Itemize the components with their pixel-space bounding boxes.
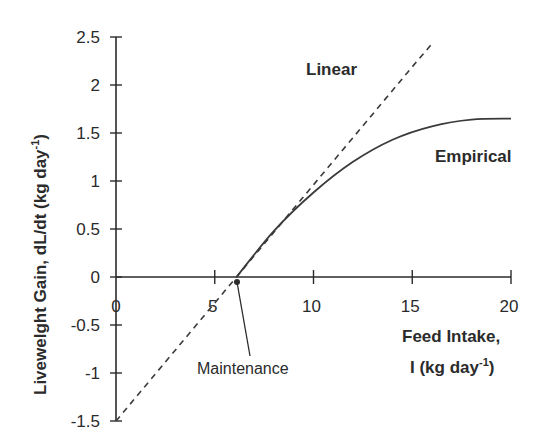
y-tick-label: 2 <box>91 76 100 95</box>
x-axis-title-line2: I (kg day-1) <box>410 356 494 377</box>
x-tick-label: 0 <box>111 297 120 316</box>
empirical-series-line <box>237 119 512 277</box>
y-tick-label: -0.5 <box>71 316 100 335</box>
y-tick-label: 0 <box>91 268 100 287</box>
y-tick-label: 1.5 <box>76 124 100 143</box>
y-tick-label: 1 <box>91 172 100 191</box>
y-tick-label: -1 <box>85 364 100 383</box>
y-tick-labels: 2.521.510.50-0.5-1-1.5 <box>71 28 100 431</box>
maintenance-leader-line <box>237 282 250 356</box>
empirical-label: Empirical <box>435 147 512 166</box>
x-tick-label: 10 <box>302 297 321 316</box>
y-tick-label: 0.5 <box>76 220 100 239</box>
x-tick-label: 15 <box>401 297 420 316</box>
x-axis-title-line1: Feed Intake, <box>402 327 500 346</box>
x-tick-labels: 05101520 <box>111 297 518 316</box>
y-axis-title: Livewelght Gain, dL/dt (kg day-1) <box>29 134 50 395</box>
chart: 2.521.510.50-0.5-1-1.5 05101520 Maintena… <box>0 0 551 447</box>
y-tick-label: 2.5 <box>76 28 100 47</box>
x-tick-label: 20 <box>500 297 519 316</box>
x-tick-label: 5 <box>208 297 217 316</box>
maintenance-label: Maintenance <box>197 360 289 377</box>
y-tick-label: -1.5 <box>71 412 100 431</box>
linear-label: Linear <box>306 60 357 79</box>
